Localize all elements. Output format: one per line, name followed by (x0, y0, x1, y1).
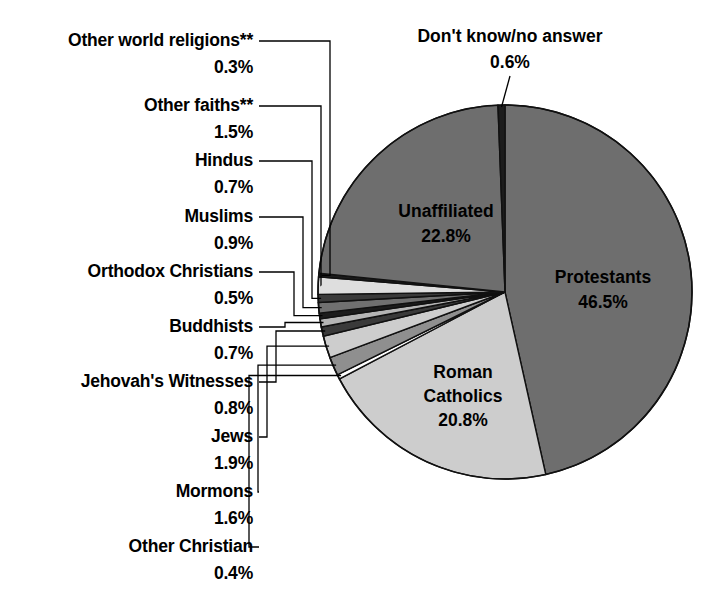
callout-pct-jews: 1.9% (214, 453, 254, 473)
callout-name-jehovahs-witnesses: Jehovah's Witnesses (81, 371, 254, 391)
leader-line-orthodox-christians (259, 272, 323, 316)
callout-name-mormons: Mormons (176, 481, 254, 501)
callout-pct-muslims: 0.9% (214, 233, 254, 253)
callout-pct-jehovahs-witnesses: 0.8% (214, 398, 254, 418)
callout-name-other-faiths: Other faiths** (144, 95, 253, 115)
inner-label-protestants-name: Protestants (555, 267, 652, 287)
callout-pct-other-world-religions: 0.3% (214, 57, 254, 77)
pie-slice-unaffiliated (319, 105, 505, 292)
callout-pct-orthodox-christians: 0.5% (214, 288, 254, 308)
inner-label-roman-catholics-line3: 20.8% (438, 410, 488, 430)
inner-label-protestants-pct: 46.5% (578, 292, 628, 312)
pie-chart-figure: Protestants46.5%RomanCatholics20.8%Unaff… (0, 0, 710, 599)
callout-name-hindus: Hindus (195, 150, 254, 170)
callout-name-other-christian: Other Christian (129, 536, 253, 556)
inner-label-unaffiliated-pct: 22.8% (421, 226, 471, 246)
callout-name-other-world-religions: Other world religions** (68, 30, 253, 50)
leader-line-jews (259, 346, 329, 437)
leader-line-jehovahs-witnesses (259, 331, 325, 382)
leader-line-dont-know (502, 76, 511, 107)
inner-label-roman-catholics-line1: Roman (433, 362, 492, 382)
leader-line-other-christian (249, 376, 341, 548)
inner-label-roman-catholics-line2: Catholics (424, 386, 503, 406)
callout-name-orthodox-christians: Orthodox Christians (88, 261, 254, 281)
leader-line-hindus (259, 161, 321, 298)
leader-line-buddhists (259, 323, 324, 328)
top-callout-pct: 0.6% (490, 52, 530, 72)
leader-line-other-world-religions (259, 41, 330, 275)
leader-line-mormons (258, 365, 336, 492)
callout-name-buddhists: Buddhists (169, 316, 253, 336)
pie-slices-group (318, 105, 692, 479)
callout-name-muslims: Muslims (184, 206, 253, 226)
callout-pct-other-faiths: 1.5% (214, 122, 254, 142)
callout-name-jews: Jews (211, 426, 253, 446)
callout-pct-hindus: 0.7% (214, 177, 254, 197)
callout-pct-buddhists: 0.7% (214, 343, 254, 363)
chart-canvas: Protestants46.5%RomanCatholics20.8%Unaff… (0, 0, 710, 599)
callout-pct-mormons: 1.6% (214, 508, 254, 528)
top-callout-name: Don't know/no answer (417, 26, 602, 46)
callout-pct-other-christian: 0.4% (214, 563, 254, 583)
inner-label-unaffiliated-name: Unaffiliated (398, 201, 493, 221)
